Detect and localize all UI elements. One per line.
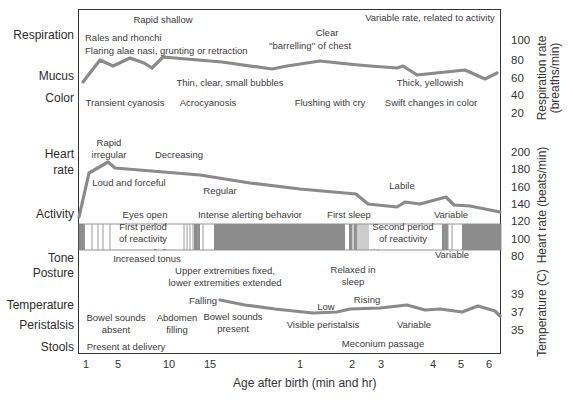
y-axis-label: Respiration rate(breaths/min): [536, 28, 562, 128]
y-axis-label: Temperature (C): [536, 268, 549, 358]
annotation: Acrocyanosis: [180, 97, 237, 108]
annotation: Visible peristalsis: [287, 319, 360, 330]
row-label: Activity: [0, 207, 74, 221]
annotation: Variable: [397, 319, 431, 330]
annotation: Second period: [372, 221, 433, 232]
annotation: Low: [317, 301, 334, 312]
annotation: Bowel sounds: [86, 312, 145, 323]
y-tick-label: 80: [511, 250, 524, 262]
x-tick-label: 1: [83, 358, 89, 370]
annotation: Rising: [354, 294, 380, 305]
x-tick-label: 4: [430, 358, 436, 370]
annotation: Transient cyanosis: [86, 97, 165, 108]
y-tick-label: 20: [511, 107, 524, 119]
annotation: irregular: [92, 149, 127, 160]
y-tick-label: 100: [511, 34, 530, 46]
activity-dark-segment: [462, 224, 501, 250]
row-label: Mucus: [0, 69, 74, 83]
row-label: Stools: [0, 340, 74, 354]
annotation: of reactivity: [119, 233, 167, 244]
annotation: Rapid: [97, 137, 122, 148]
y-tick-label: 80: [511, 54, 524, 66]
annotation: Flushing with cry: [295, 97, 366, 108]
activity-dark-segment: [194, 224, 200, 250]
annotation: lower extremities extended: [169, 277, 282, 288]
y-tick-label: 160: [511, 181, 530, 193]
annotation: Thick, yellowish: [397, 77, 464, 88]
annotation: Flaring alae nasi, grunting or retractio…: [85, 45, 248, 56]
annotation: absent: [102, 324, 131, 335]
annotation: Relaxed in: [331, 264, 376, 275]
y-tick-label: 40: [511, 89, 524, 101]
annotation: Meconium passage: [342, 338, 424, 349]
annotation: Swift changes in color: [385, 97, 477, 108]
annotation: of reactivity: [379, 233, 427, 244]
x-tick-label: 10: [163, 358, 175, 370]
annotation: Increased tonus: [113, 253, 181, 264]
annotation: Rales and rhonchi: [85, 32, 162, 43]
x-tick-label: 1: [297, 358, 303, 370]
row-label: Respiration: [0, 28, 74, 42]
annotation: Rapid shallow: [133, 14, 192, 25]
annotation: Clear: [316, 27, 339, 38]
x-tick-label: 2: [349, 358, 355, 370]
row-label: Posture: [0, 266, 74, 280]
activity-dark-segment: [214, 224, 345, 250]
annotation: Regular: [203, 185, 236, 196]
annotation: Labile: [389, 180, 414, 191]
x-tick-label: 5: [115, 358, 121, 370]
annotation: Falling: [189, 295, 217, 306]
annotation: Upper extremities fixed,: [175, 265, 275, 276]
annotation: Intense alerting behavior: [198, 209, 302, 220]
y-tick-label: 37: [511, 306, 524, 318]
annotation: Variable: [434, 209, 468, 220]
annotation: ''barrelling'' of chest: [269, 40, 351, 51]
annotation: First period: [119, 221, 167, 232]
row-label: Heart: [0, 147, 74, 161]
annotation: Eyes open: [123, 209, 168, 220]
annotation: Loud and forceful: [92, 177, 165, 188]
annotation: Variable rate, related to activity: [365, 12, 495, 23]
y-tick-label: 100: [511, 233, 530, 245]
row-label: rate: [0, 163, 74, 177]
y-tick-label: 120: [511, 215, 530, 227]
x-tick-label: 6: [486, 358, 492, 370]
y-tick-label: 180: [511, 163, 530, 175]
annotation: First sleep: [327, 209, 371, 220]
annotation: sleep: [342, 276, 365, 287]
row-label: Temperature: [0, 298, 74, 312]
y-tick-label: 60: [511, 72, 524, 84]
annotation: Thin, clear, small bubbles: [176, 77, 283, 88]
row-label: Tone: [0, 251, 74, 265]
annotation: filling: [166, 324, 188, 335]
x-tick-label: 5: [458, 358, 464, 370]
annotation: Decreasing: [155, 149, 203, 160]
x-tick-label: 15: [204, 358, 216, 370]
y-tick-label: 35: [511, 324, 524, 336]
row-label: Color: [0, 91, 74, 105]
annotation: Variable: [435, 249, 469, 260]
y-tick-label: 39: [511, 288, 524, 300]
x-tick-label: 3: [378, 358, 384, 370]
annotation: present: [217, 323, 249, 334]
y-axis-label: Heart rate (beats/min): [536, 135, 549, 275]
x-axis-label: Age after birth (min and hr): [233, 376, 376, 390]
row-label: Peristalsis: [0, 318, 74, 332]
annotation: Present at delivery: [87, 341, 166, 352]
annotation: Abdomen: [157, 312, 198, 323]
annotation: Bowel sounds: [203, 311, 262, 322]
y-tick-label: 140: [511, 198, 530, 210]
y-tick-label: 200: [511, 146, 530, 158]
